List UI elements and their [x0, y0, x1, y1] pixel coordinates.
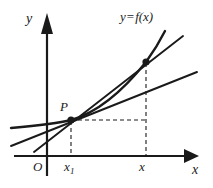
x-axis-label: x: [192, 163, 198, 177]
origin-label: O: [33, 160, 42, 173]
secant-line-pq: [34, 36, 183, 152]
point-p-marker: [67, 116, 74, 123]
x-axis-arrowhead-icon: [184, 149, 199, 163]
y-axis-label: y: [26, 12, 32, 26]
curve-y-equals-fx: [11, 31, 165, 128]
y-axis-arrowhead-icon: [41, 13, 53, 34]
curve-equation-lhs: y: [120, 9, 126, 24]
curve-equation-label: y=f(x): [120, 10, 153, 23]
tick-label-x: x: [139, 160, 145, 173]
curve-equation-rhs: f(x): [135, 9, 153, 24]
figure-canvas: y x O P x1 x y=f(x): [0, 0, 213, 188]
point-p-label: P: [60, 100, 68, 113]
point-q-marker: [142, 58, 149, 65]
curve-equation-equals: =: [126, 9, 135, 24]
diagram-svg: [0, 0, 213, 188]
tick-label-x1-subscript: 1: [70, 166, 75, 176]
tick-label-x1: x1: [64, 160, 75, 176]
tangent-line-at-p: [11, 72, 197, 146]
tick-label-x1-base: x: [64, 159, 70, 174]
